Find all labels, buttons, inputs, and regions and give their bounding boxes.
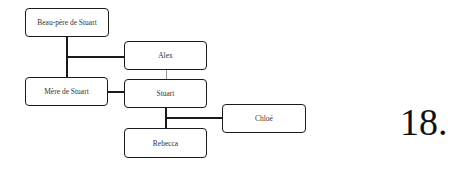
node-alex: Alex [124, 41, 207, 70]
node-mother: Mère de Stuart [25, 77, 108, 106]
connector-alex-stuart [166, 70, 167, 79]
node-rebecca: Rebecca [124, 128, 207, 158]
connector-stepfather-alex [66, 56, 124, 58]
connector-mother-stuart [108, 91, 124, 93]
node-stepfather: Beau-père de Stuart [25, 8, 109, 37]
connector-stuart-chloe [165, 117, 222, 119]
question-number: 18. [400, 103, 448, 141]
node-stuart: Stuart [124, 79, 207, 108]
node-chloe: Chloé [222, 104, 306, 133]
